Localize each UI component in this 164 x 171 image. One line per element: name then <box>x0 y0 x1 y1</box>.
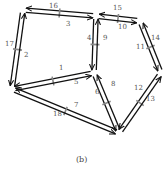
edge-label-8: 8 <box>111 81 115 88</box>
edge-label-5: 5 <box>74 79 78 86</box>
edge-label-11: 11 <box>136 44 145 51</box>
edge-label-3: 3 <box>66 21 70 28</box>
edge-tick-mark <box>13 49 22 50</box>
edge-arrow-9 <box>96 19 98 70</box>
graph-diagram: 163151017249141115681213718 (b) <box>0 0 164 171</box>
edge-tick-mark <box>52 77 54 86</box>
edge-label-9: 9 <box>103 35 107 42</box>
edge-label-13: 13 <box>146 96 155 103</box>
edge-arrow-11 <box>143 23 162 69</box>
edge-label-6: 6 <box>95 89 99 96</box>
edge-label-10: 10 <box>118 24 127 31</box>
edge-arrow-5 <box>15 76 91 91</box>
edge-tick-mark <box>117 14 118 23</box>
figure-caption: (b) <box>76 155 87 164</box>
edge-arrow-7 <box>14 92 115 134</box>
edge-label-17: 17 <box>5 41 14 48</box>
edge-label-1: 1 <box>59 65 63 72</box>
edge-label-7: 7 <box>74 102 78 109</box>
edge-label-18: 18 <box>53 111 62 118</box>
edge-arrow-8 <box>97 75 120 129</box>
edge-label-4: 4 <box>87 35 91 42</box>
edge-label-12: 12 <box>134 85 143 92</box>
edge-label-16: 16 <box>49 3 58 10</box>
edge-label-14: 14 <box>151 35 160 42</box>
edge-label-15: 15 <box>113 5 122 12</box>
edge-tick-mark <box>59 9 60 18</box>
edge-label-2: 2 <box>24 52 28 59</box>
edges-layer <box>10 8 162 134</box>
